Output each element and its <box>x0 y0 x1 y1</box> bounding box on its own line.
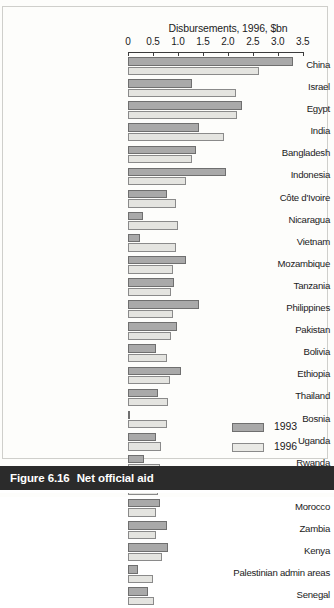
x-tick-mark <box>253 52 254 56</box>
bar-1993 <box>128 499 160 507</box>
bars-area <box>128 365 334 387</box>
bar-group-row: Thailand <box>0 387 334 409</box>
bar-group-row: Nicaragua <box>0 211 334 233</box>
legend-label: 1996 <box>274 440 297 452</box>
x-tick-label: 0 <box>125 36 130 47</box>
x-tick-label: 2.0 <box>221 36 234 47</box>
bars-area <box>128 144 334 166</box>
x-tick-mark <box>178 52 179 56</box>
x-axis-line <box>128 52 303 53</box>
bar-1993 <box>128 57 293 65</box>
bar-rows: ChinaIsraelEgyptIndiaBangladeshIndonesia… <box>0 56 334 608</box>
bars-area <box>128 122 334 144</box>
bar-group-row: Morocco <box>0 498 334 520</box>
bars-area <box>128 498 334 520</box>
x-tick-label: 3.0 <box>271 36 284 47</box>
bar-1993 <box>128 455 144 463</box>
x-tick-mark <box>153 52 154 56</box>
bars-area <box>128 299 334 321</box>
bars-area <box>128 343 334 365</box>
x-tick-label: 2.5 <box>246 36 259 47</box>
bar-1993 <box>128 234 140 242</box>
bar-1993 <box>128 256 186 264</box>
bar-group-row: Kenya <box>0 542 334 564</box>
bar-1996 <box>128 531 156 539</box>
bar-1996 <box>128 354 167 362</box>
bar-1996 <box>128 111 237 119</box>
bar-1993 <box>128 543 168 551</box>
bar-1996 <box>128 442 161 450</box>
bars-area <box>128 410 334 432</box>
bar-group-row: Pakistan <box>0 321 334 343</box>
figure-caption-text: Net official aid <box>77 472 154 484</box>
bar-1996 <box>128 332 171 340</box>
x-tick-mark <box>128 52 129 56</box>
bar-group-row: Palestinian admin areas <box>0 564 334 586</box>
bar-1996 <box>128 177 186 185</box>
bar-1993 <box>128 389 158 397</box>
bar-1993 <box>128 123 199 131</box>
bar-1993 <box>128 411 130 419</box>
bar-1993 <box>128 168 226 176</box>
bar-1993 <box>128 146 196 154</box>
x-tick-mark <box>228 52 229 56</box>
legend-label: 1993 <box>274 420 297 432</box>
bar-1996 <box>128 398 168 406</box>
bar-1996 <box>128 89 236 97</box>
bars-area <box>128 211 334 233</box>
bar-1996 <box>128 221 178 229</box>
bar-1996 <box>128 133 224 141</box>
x-tick-mark <box>278 52 279 56</box>
bar-group-row: Philippines <box>0 299 334 321</box>
x-tick-label: 1.0 <box>171 36 184 47</box>
bar-1996 <box>128 420 167 428</box>
bars-area <box>128 255 334 277</box>
bar-1993 <box>128 212 143 220</box>
bar-1996 <box>128 553 162 561</box>
bar-group-row: Bolivia <box>0 343 334 365</box>
bar-group-row: India <box>0 122 334 144</box>
bar-chart-plot: Disbursements, 1996, $bn 00.51.01.52.02.… <box>0 0 334 460</box>
bar-1996 <box>128 199 176 207</box>
bar-1993 <box>128 101 242 109</box>
bar-1996 <box>128 243 176 251</box>
bars-area <box>128 387 334 409</box>
bar-1993 <box>128 587 148 595</box>
bar-1993 <box>128 344 156 352</box>
bar-1993 <box>128 322 177 330</box>
bar-group-row: Tanzania <box>0 277 334 299</box>
bar-1993 <box>128 521 167 529</box>
bars-area <box>128 321 334 343</box>
bar-group-row: Senegal <box>0 586 334 608</box>
dark-grey-swatch <box>232 423 264 432</box>
bar-group-row: Vietnam <box>0 233 334 255</box>
bars-area <box>128 100 334 122</box>
bar-1996 <box>128 376 170 384</box>
bars-area <box>128 586 334 608</box>
x-axis-tick-labels: 00.51.01.52.02.53.03.5 <box>0 36 334 49</box>
bar-group-row: China <box>0 56 334 78</box>
bar-group-row: Ethiopia <box>0 365 334 387</box>
bar-1996 <box>128 508 156 516</box>
bars-area <box>128 166 334 188</box>
bar-1996 <box>128 597 154 605</box>
chart-axis-title: Disbursements, 1996, $bn <box>128 22 328 34</box>
bar-group-row: Israel <box>0 78 334 100</box>
light-grey-swatch <box>232 443 264 452</box>
bars-area <box>128 542 334 564</box>
bar-1993 <box>128 367 181 375</box>
x-tick-label: 0.5 <box>146 36 159 47</box>
figure-caption: Figure 6.16 Net official aid <box>10 466 154 490</box>
figure-caption-number: Figure 6.16 <box>10 472 70 484</box>
bar-group-row: Côte d'Ivoire <box>0 189 334 211</box>
x-tick-label: 3.5 <box>296 36 309 47</box>
x-tick-mark <box>303 52 304 56</box>
bars-area <box>128 564 334 586</box>
figure-caption-bar: Figure 6.16 Net official aid <box>0 466 334 490</box>
bars-area <box>128 520 334 542</box>
bars-area <box>128 432 334 454</box>
bars-area <box>128 233 334 255</box>
bar-1993 <box>128 79 192 87</box>
bar-group-row: Egypt <box>0 100 334 122</box>
